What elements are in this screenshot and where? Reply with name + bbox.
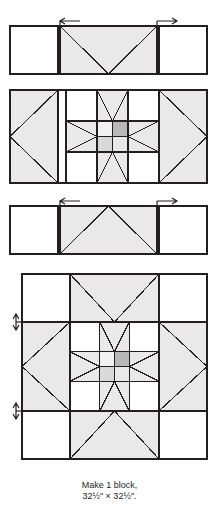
stage-assembled-block [8, 270, 211, 470]
bottom-row-arrows [60, 198, 177, 206]
seam-arrow-right [157, 198, 177, 204]
block-corner-top-right [159, 274, 207, 322]
block-corner-bottom-left [22, 411, 70, 459]
center-patch-top-right [115, 352, 130, 367]
star-corner-bottom-right [128, 152, 159, 183]
top-row-arrows [60, 18, 177, 26]
center-patch-top-left [97, 121, 113, 137]
seam-arrow-left [60, 198, 80, 204]
center-patch-bottom-right [115, 367, 130, 382]
assembled-block-arrows [13, 314, 22, 419]
caption: Make 1 block, 32½" × 32½". [0, 480, 219, 502]
caption-line-2: 32½" × 32½". [0, 491, 219, 502]
top-row-svg [8, 14, 211, 76]
center-patch-bottom-right [113, 137, 129, 153]
plain-square-left [10, 206, 58, 254]
block-corner-top-left [22, 274, 70, 322]
caption-line-1: Make 1 block, [0, 480, 219, 491]
stage-middle-row [8, 86, 211, 186]
inner-star-corner-top-left [70, 322, 100, 352]
bottom-row-svg [8, 194, 211, 256]
stage-bottom-row [8, 194, 211, 256]
stage-top-row [8, 14, 211, 76]
inner-star-corner-bottom-right [129, 381, 159, 411]
middle-row-svg [8, 86, 211, 186]
block-corner-bottom-right [159, 411, 207, 459]
star-corner-bottom-left [66, 152, 97, 183]
seam-arrow-right [157, 18, 177, 24]
plain-square-right [159, 206, 207, 254]
center-patch-top-right [113, 121, 129, 137]
star-corner-top-left [66, 90, 97, 121]
center-patch-top-left [100, 352, 115, 367]
inner-star-corner-bottom-left [70, 381, 100, 411]
plain-square-left [10, 26, 58, 74]
assembled-block-svg [8, 270, 211, 470]
inner-star-corner-top-right [129, 322, 159, 352]
plain-square-right [159, 26, 207, 74]
seam-arrow-left [60, 18, 80, 24]
center-patch-bottom-left [97, 137, 113, 153]
center-patch-bottom-left [100, 367, 115, 382]
star-corner-top-right [128, 90, 159, 121]
